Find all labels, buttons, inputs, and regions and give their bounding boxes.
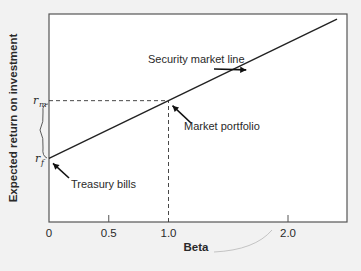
security-market-line-chart: 00.51.02.0 Expected return on investment… — [0, 0, 361, 271]
x-tick-label: 0.5 — [101, 227, 117, 239]
plot-area — [49, 14, 347, 222]
x-tick-label: 1.0 — [161, 227, 177, 239]
x-tick-label: 0 — [46, 227, 52, 239]
annotation-treasury-bills: Treasury bills — [71, 178, 136, 190]
x-axis-title: Beta — [184, 241, 210, 253]
rm-marker: r m — [33, 94, 47, 109]
beta-connector-curve — [214, 230, 272, 252]
rf-marker: r f — [35, 152, 46, 167]
rf-subscript: f — [40, 158, 46, 167]
y-axis-title: Expected return on investment — [7, 33, 19, 202]
risk-premium-brace — [40, 104, 48, 158]
annotation-market-portfolio: Market portfolio — [184, 120, 260, 132]
annotation-security-market-line: Security market line — [148, 53, 245, 65]
x-tick-label: 2.0 — [280, 227, 296, 239]
